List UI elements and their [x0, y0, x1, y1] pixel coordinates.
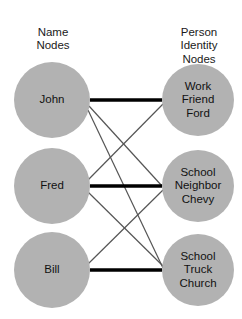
identity-node-work-friend-ford-label: Work Friend Ford — [182, 80, 215, 121]
bipartite-graph-diagram: Name Nodes Person Identity Nodes JohnFre… — [0, 0, 242, 319]
name-node-fred-label: Fred — [40, 179, 64, 193]
column-header-name-nodes: Name Nodes — [13, 12, 93, 53]
graph-edge — [88, 104, 163, 180]
graph-edge — [88, 190, 163, 264]
edges-group — [88, 100, 163, 270]
identity-node-school-truck-church-label: School Truck Church — [179, 250, 216, 291]
name-node-john[interactable]: John — [14, 62, 90, 138]
graph-edge — [89, 106, 162, 186]
name-node-fred[interactable]: Fred — [14, 148, 90, 224]
graph-edge — [88, 192, 163, 266]
identity-node-work-friend-ford[interactable]: Work Friend Ford — [162, 64, 234, 136]
name-node-john-label: John — [40, 93, 65, 107]
graph-edge — [88, 110, 163, 268]
identity-node-school-neighbor-chevy-label: School Neighbor Chevy — [175, 166, 222, 207]
name-node-bill[interactable]: Bill — [14, 232, 90, 308]
name-node-bill-label: Bill — [44, 263, 59, 277]
column-header-person-identity-nodes: Person Identity Nodes — [163, 12, 235, 66]
column-header-person-identity-nodes-label: Person Identity Nodes — [180, 26, 217, 65]
column-header-name-nodes-label: Name Nodes — [36, 26, 69, 52]
identity-node-school-truck-church[interactable]: School Truck Church — [162, 234, 234, 306]
identity-node-school-neighbor-chevy[interactable]: School Neighbor Chevy — [162, 150, 234, 222]
